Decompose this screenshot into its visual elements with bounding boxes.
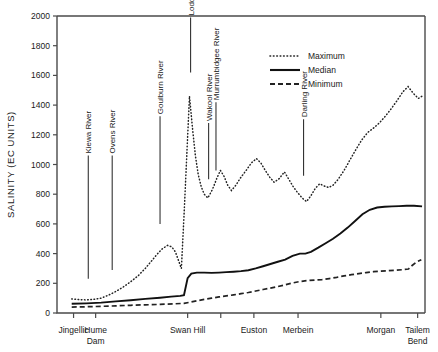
annotation-label: Ovens River <box>108 109 117 153</box>
y-tick-label: 800 <box>36 189 50 199</box>
legend-label-maximum: Maximum <box>308 51 345 61</box>
y-tick-label: 1600 <box>31 70 50 80</box>
y-tick-label: 1800 <box>31 41 50 51</box>
salinity-chart: 0200400600800100012001400160018002000 Ki… <box>0 0 438 352</box>
y-tick-label: 1200 <box>31 130 50 140</box>
y-tick-label: 1400 <box>31 100 50 110</box>
legend-label-minimum: Minimum <box>308 79 342 89</box>
y-tick-label: 2000 <box>31 11 50 21</box>
x-tick-label: Morgan <box>366 325 395 335</box>
x-tick-label-line2: Bend <box>408 336 428 346</box>
legend-label-median: Median <box>308 65 336 75</box>
x-tick-label: Swan Hill <box>170 325 206 335</box>
x-tick-label: Merbein <box>283 325 314 335</box>
x-tick-label: Tailem <box>405 325 430 335</box>
annotation-label: Darling River <box>300 71 309 118</box>
y-tick-label: 400 <box>36 249 50 259</box>
x-tick-label: Hume <box>84 325 107 335</box>
y-axis-title: SALINITY (EC UNITS) <box>5 111 16 218</box>
x-tick-label-line2: Dam <box>87 336 105 346</box>
y-tick-label: 200 <box>36 278 50 288</box>
x-tick-label: Euston <box>241 325 268 335</box>
y-tick-label: 0 <box>45 308 50 318</box>
y-tick-label: 600 <box>36 219 50 229</box>
chart-canvas: 0200400600800100012001400160018002000 Ki… <box>0 0 438 352</box>
y-tick-label: 1000 <box>31 160 50 170</box>
annotation-label: Murrumbidgee River <box>212 27 221 100</box>
annotation-label: Loddon River <box>187 0 196 15</box>
annotation-label: Kiewa River <box>84 111 93 154</box>
annotation-label: Goulburn River <box>156 60 165 114</box>
